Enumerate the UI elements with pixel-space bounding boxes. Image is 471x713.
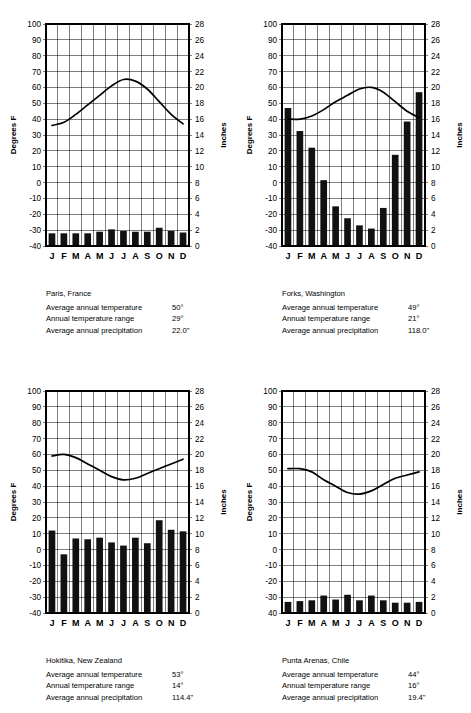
precipitation-bar	[308, 148, 315, 246]
temperature-tick-label: 50	[268, 466, 278, 475]
month-label: A	[84, 251, 91, 261]
station-name: Punta Arenas, Chile	[282, 655, 471, 666]
left-axis-title: Degrees F	[245, 483, 254, 522]
month-label: F	[297, 618, 303, 628]
stat-average-annual-temperature: Average annual temperature 50°	[46, 302, 236, 313]
grid-lines-paris	[46, 24, 189, 246]
stat-label: Average annual precipitation	[282, 325, 408, 336]
month-label: J	[357, 251, 362, 261]
precipitation-tick-label: 26	[195, 36, 205, 45]
stat-value: 19.4"	[408, 692, 425, 703]
precipitation-bar	[168, 231, 175, 246]
precipitation-bar	[404, 122, 411, 246]
precipitation-bar	[132, 538, 139, 613]
precipitation-tick-label: 4	[431, 210, 436, 219]
temperature-tick-label: -20	[29, 210, 41, 219]
precipitation-tick-label: 20	[431, 450, 441, 459]
stat-average-annual-precipitation: Average annual precipitation 19.4"	[282, 692, 471, 703]
precipitation-tick-label: 24	[431, 52, 441, 61]
right-axis-punta-arenas: 2826242220181614121086420	[425, 387, 441, 618]
temperature-tick-label: 30	[268, 498, 278, 507]
stat-value: 22.0"	[172, 325, 189, 336]
precipitation-bar	[308, 600, 315, 613]
month-label: J	[285, 618, 290, 628]
precipitation-tick-label: 12	[195, 147, 205, 156]
month-label: S	[380, 618, 386, 628]
stat-label: Average annual precipitation	[46, 692, 172, 703]
right-axis-title: Inches	[219, 489, 228, 515]
temperature-tick-label: 80	[32, 419, 42, 428]
precipitation-bar	[96, 538, 103, 613]
month-axis-paris: JFMAMJJASOND	[49, 251, 186, 261]
month-label: D	[180, 618, 187, 628]
precipitation-tick-label: 26	[431, 403, 441, 412]
temperature-tick-label: 20	[32, 514, 42, 523]
precipitation-bar	[356, 600, 363, 613]
right-axis-title: Inches	[455, 489, 464, 515]
temperature-tick-label: 80	[268, 52, 278, 61]
temperature-tick-label: 70	[32, 435, 42, 444]
temperature-tick-label: 60	[32, 83, 42, 92]
precipitation-bar	[61, 233, 68, 246]
precipitation-tick-label: 10	[431, 530, 441, 539]
precipitation-bar	[49, 531, 56, 613]
left-axis-forks: 1009080706050403020100-10-20-30-40	[263, 20, 282, 251]
stat-average-annual-precipitation: Average annual precipitation 118.0"	[282, 325, 471, 336]
temperature-tick-label: 90	[32, 36, 42, 45]
caption-hokitika: Hokitika, New Zealand Average annual tem…	[46, 655, 236, 703]
station-name: Paris, France	[46, 288, 236, 299]
stat-value: 49°	[408, 302, 419, 313]
precipitation-bar	[49, 233, 56, 246]
stat-label: Annual temperature range	[282, 313, 408, 324]
caption-punta-arenas: Punta Arenas, Chile Average annual tempe…	[282, 655, 471, 703]
precipitation-bar	[132, 232, 139, 246]
month-label: A	[368, 618, 375, 628]
stat-value: 29°	[172, 313, 183, 324]
precipitation-bar	[72, 538, 79, 613]
stat-annual-temperature-range: Annual temperature range 16°	[282, 680, 471, 691]
chart-area-punta-arenas: 1009080706050403020100-10-20-30402826242…	[236, 369, 471, 654]
precipitation-tick-label: 22	[431, 435, 441, 444]
temperature-tick-label: 10	[32, 530, 42, 539]
precipitation-tick-label: 4	[431, 577, 436, 586]
month-label: J	[357, 618, 362, 628]
precipitation-bar	[72, 233, 79, 246]
stat-label: Annual temperature range	[46, 313, 172, 324]
temperature-tick-label: 40	[32, 482, 42, 491]
precipitation-tick-label: 28	[431, 387, 441, 396]
precipitation-tick-label: 2	[431, 593, 436, 602]
temperature-tick-label: 0	[272, 179, 277, 188]
climograph-panel-forks: 1009080706050403020100-10-20-30-40282624…	[236, 2, 471, 352]
precipitation-tick-label: 28	[431, 20, 441, 29]
precipitation-tick-label: 0	[195, 242, 200, 251]
precipitation-tick-label: 24	[431, 419, 441, 428]
stat-value: 14°	[172, 680, 183, 691]
grid-lines-punta-arenas	[282, 391, 425, 613]
right-axis-hokitika: 2826242220181614121086420	[189, 387, 205, 618]
caption-paris: Paris, France Average annual temperature…	[46, 288, 236, 336]
temperature-tick-label: 30	[32, 131, 42, 140]
temperature-tick-label: -30	[29, 226, 41, 235]
temperature-tick-label: 30	[268, 131, 278, 140]
chart-area-forks: 1009080706050403020100-10-20-30-40282624…	[236, 2, 471, 287]
stat-annual-temperature-range: Annual temperature range 29°	[46, 313, 236, 324]
month-label: D	[180, 251, 187, 261]
precipitation-tick-label: 10	[195, 163, 205, 172]
month-label: O	[156, 251, 163, 261]
stat-value: 114.4"	[172, 692, 193, 703]
right-axis-title: Inches	[455, 122, 464, 148]
stat-label: Average annual temperature	[282, 669, 408, 680]
precipitation-bar	[168, 530, 175, 613]
precipitation-bar	[392, 603, 399, 613]
temperature-tick-label: 40	[268, 115, 278, 124]
precipitation-tick-label: 0	[431, 609, 436, 618]
temperature-tick-label: 80	[32, 52, 42, 61]
month-label: S	[144, 251, 150, 261]
precipitation-bar	[404, 603, 411, 613]
stat-label: Average annual temperature	[46, 302, 172, 313]
right-axis-title: Inches	[219, 122, 228, 148]
precipitation-bar	[96, 232, 103, 246]
temperature-tick-label: 20	[268, 147, 278, 156]
precipitation-tick-label: 2	[195, 593, 200, 602]
precipitation-tick-label: 12	[431, 147, 441, 156]
